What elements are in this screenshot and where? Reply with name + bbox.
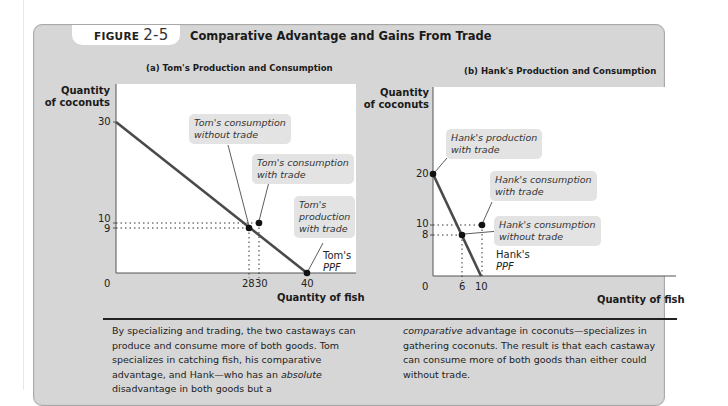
caption-column-2: comparative advantage in coconuts—specia… <box>403 324 665 382</box>
callout-line: with trade <box>495 186 592 198</box>
callout-hank-without-trade: Hank's consumption without trade <box>494 216 601 246</box>
callout-hank-with-trade: Hank's consumption with trade <box>490 171 597 201</box>
caption-divider <box>103 318 677 320</box>
ppf-label-line1: Hank's <box>496 249 530 261</box>
panel-b-xtick-10: 10 <box>475 281 488 292</box>
panel-b-ytick-20: 20 <box>416 168 429 179</box>
callout-hank-production: Hank's production with trade <box>446 129 542 159</box>
panel-b-xlabel: Quantity of fish <box>597 294 685 305</box>
caption-emphasis: comparative <box>403 325 463 336</box>
callout-line: Hank's consumption <box>495 174 592 186</box>
callout-line: Hank's production <box>451 132 537 144</box>
callout-line: with trade <box>451 144 537 156</box>
panel-b-ytick-8: 8 <box>422 229 428 240</box>
hank-ppf-label: Hank's PPF <box>496 249 530 273</box>
callout-line: Hank's consumption <box>499 219 596 231</box>
ppf-label-line2: PPF <box>496 261 530 273</box>
caption-column-1: By specializing and trading, the two cas… <box>112 324 374 397</box>
panel-b-xtick-0: 0 <box>422 281 428 292</box>
caption-emphasis: absolute <box>281 369 322 380</box>
panel-b-xtick-6: 6 <box>459 281 465 292</box>
caption-text: disadvantage in both goods but a <box>112 383 272 394</box>
callout-line: without trade <box>499 231 596 243</box>
panel-b-ytick-10: 10 <box>416 218 429 229</box>
